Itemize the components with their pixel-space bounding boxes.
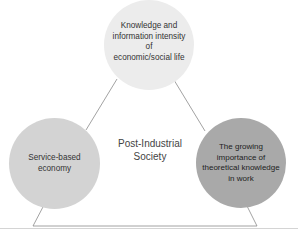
edge-top-right xyxy=(174,80,205,131)
node-service-economy-label: Service-based economy xyxy=(28,153,80,174)
node-service-economy: Service-based economy xyxy=(9,118,100,209)
node-line: economy xyxy=(28,164,80,175)
center-label-line: Society xyxy=(104,151,196,164)
node-theoretical-knowledge: The growing importance of theoretical kn… xyxy=(196,118,286,208)
node-knowledge-intensity-label: Knowledge and information intensity of e… xyxy=(110,21,188,63)
post-industrial-society-diagram: Knowledge and information intensity of e… xyxy=(0,0,298,241)
edge-top-left xyxy=(86,79,117,130)
node-knowledge-intensity: Knowledge and information intensity of e… xyxy=(104,0,194,90)
node-line: Knowledge and xyxy=(110,21,188,32)
edge-left-right xyxy=(33,205,257,226)
footer-divider xyxy=(0,228,298,229)
node-line: information intensity of xyxy=(110,32,188,53)
node-theoretical-knowledge-label: The growing importance of theoretical kn… xyxy=(202,142,279,184)
node-line: in work xyxy=(202,174,279,185)
node-line: importance of xyxy=(202,153,279,164)
node-line: economic/social life xyxy=(110,53,188,64)
node-line: Service-based xyxy=(28,153,80,164)
center-label-line: Post-Industrial xyxy=(104,138,196,151)
node-line: theoretical knowledge xyxy=(202,163,279,174)
center-label: Post-Industrial Society xyxy=(104,138,196,163)
node-line: The growing xyxy=(202,142,279,153)
